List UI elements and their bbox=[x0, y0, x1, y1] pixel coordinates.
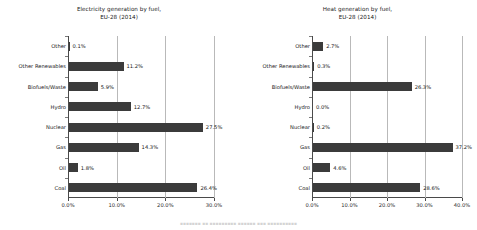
y-tick-mark-electricity bbox=[65, 36, 68, 37]
bar bbox=[69, 123, 203, 132]
chart-title-heat: Heat generation by fuel, EU-28 (2014) bbox=[238, 5, 477, 22]
figure-footer-caption: ▪▪▪▪▪▪▪ ▪▪ ▪▪▪▪▪▪▪▪▪ ▪▪▪▪▪▪ ▪▪▪ ▪▪▪▪▪▪▪▪… bbox=[0, 221, 477, 227]
gridline-heat bbox=[462, 36, 463, 198]
x-tick-label: 0.0% bbox=[305, 202, 318, 208]
y-tick-mark-electricity bbox=[65, 178, 68, 179]
x-tick-label: 0.0% bbox=[61, 202, 74, 208]
y-tick-mark-electricity bbox=[65, 97, 68, 98]
x-tick-mark-heat bbox=[350, 198, 351, 201]
y-tick-mark-heat bbox=[309, 158, 312, 159]
gridline-electricity bbox=[165, 36, 166, 198]
bar-value-label: 37.2% bbox=[456, 144, 472, 150]
bar bbox=[313, 82, 412, 91]
y-tick-mark-electricity bbox=[65, 117, 68, 118]
electricity-generation-chart: Electricity generation by fuel, EU-28 (2… bbox=[0, 0, 238, 230]
y-tick-mark-electricity bbox=[65, 137, 68, 138]
x-tick-mark-heat bbox=[312, 198, 313, 201]
x-axis-tick-labels-electricity: 0.0%10.0%20.0%30.0% bbox=[68, 202, 214, 212]
x-axis-line-electricity bbox=[68, 197, 214, 198]
x-tick-mark-heat bbox=[462, 198, 463, 201]
category-label: Other Renewables bbox=[246, 63, 310, 69]
gridline-heat bbox=[387, 36, 388, 198]
bar-value-label: 0.0% bbox=[316, 104, 329, 110]
x-tick-label: 20.0% bbox=[379, 202, 395, 208]
bar-value-label: 28.6% bbox=[423, 185, 439, 191]
x-tick-mark-electricity bbox=[165, 198, 166, 201]
x-axis-tick-labels-heat: 0.0%10.0%20.0%30.0%40.0% bbox=[312, 202, 462, 212]
x-tick-mark-electricity bbox=[68, 198, 69, 201]
bar bbox=[69, 143, 139, 152]
x-tick-mark-electricity bbox=[117, 198, 118, 201]
x-tick-label: 30.0% bbox=[206, 202, 222, 208]
bar-value-label: 26.3% bbox=[415, 84, 431, 90]
bar bbox=[313, 123, 314, 132]
bar bbox=[313, 62, 314, 71]
x-tick-label: 10.0% bbox=[108, 202, 124, 208]
bar-value-label: 0.1% bbox=[72, 43, 85, 49]
y-tick-mark-heat bbox=[309, 117, 312, 118]
figure-root: Electricity generation by fuel, EU-28 (2… bbox=[0, 0, 477, 230]
bar-value-label: 0.3% bbox=[317, 63, 330, 69]
y-tick-mark-electricity bbox=[65, 158, 68, 159]
bar bbox=[69, 62, 124, 71]
x-tick-mark-heat bbox=[425, 198, 426, 201]
y-tick-mark-heat bbox=[309, 77, 312, 78]
category-label: Oil bbox=[0, 165, 66, 171]
category-label: Coal bbox=[0, 185, 66, 191]
bar-value-label: 1.8% bbox=[81, 165, 94, 171]
category-label: Other bbox=[0, 43, 66, 49]
bar bbox=[69, 163, 78, 172]
gridline-heat bbox=[350, 36, 351, 198]
y-axis-line-electricity bbox=[68, 36, 69, 198]
x-tick-label: 10.0% bbox=[341, 202, 357, 208]
category-label: Nuclear bbox=[0, 124, 66, 130]
bar-value-label: 11.2% bbox=[127, 63, 143, 69]
bar bbox=[69, 82, 98, 91]
bar bbox=[313, 163, 330, 172]
bar bbox=[313, 183, 420, 192]
bar-value-label: 2.7% bbox=[326, 43, 339, 49]
y-tick-mark-heat bbox=[309, 56, 312, 57]
gridline-electricity bbox=[117, 36, 118, 198]
bar bbox=[69, 183, 197, 192]
bar-value-label: 26.4% bbox=[200, 185, 216, 191]
category-label: Other Renewables bbox=[0, 63, 66, 69]
bar bbox=[69, 102, 131, 111]
category-label: Gas bbox=[0, 144, 66, 150]
category-label: Biofuels/Waste bbox=[0, 84, 66, 90]
x-tick-label: 20.0% bbox=[157, 202, 173, 208]
bar bbox=[313, 143, 453, 152]
bar-value-label: 27.5% bbox=[206, 124, 222, 130]
x-tick-mark-electricity bbox=[214, 198, 215, 201]
category-label: Other bbox=[246, 43, 310, 49]
y-tick-mark-heat bbox=[309, 137, 312, 138]
chart-title-electricity: Electricity generation by fuel, EU-28 (2… bbox=[0, 5, 238, 22]
plot-area-heat: 2.7%0.3%26.3%0.0%0.2%37.2%4.6%28.6% bbox=[312, 36, 462, 198]
bar-value-label: 4.6% bbox=[333, 165, 346, 171]
y-tick-mark-electricity bbox=[65, 77, 68, 78]
x-tick-mark-heat bbox=[387, 198, 388, 201]
gridline-heat bbox=[425, 36, 426, 198]
y-axis-line-heat bbox=[312, 36, 313, 198]
x-tick-label: 30.0% bbox=[416, 202, 432, 208]
category-label: Coal bbox=[246, 185, 310, 191]
bar-value-label: 12.7% bbox=[134, 104, 150, 110]
category-label: Gas bbox=[246, 144, 310, 150]
y-tick-mark-electricity bbox=[65, 56, 68, 57]
y-tick-mark-heat bbox=[309, 178, 312, 179]
gridline-electricity bbox=[214, 36, 215, 198]
y-axis-category-labels-heat: OtherOther RenewablesBiofuels/WasteHydro… bbox=[246, 36, 310, 198]
bar-value-label: 14.3% bbox=[142, 144, 158, 150]
x-tick-label: 40.0% bbox=[454, 202, 470, 208]
plot-area-electricity: 0.1%11.2%5.9%12.7%27.5%14.3%1.8%26.4% bbox=[68, 36, 214, 198]
category-label: Hydro bbox=[246, 104, 310, 110]
y-axis-category-labels-electricity: OtherOther RenewablesBiofuels/WasteHydro… bbox=[0, 36, 66, 198]
category-label: Oil bbox=[246, 165, 310, 171]
bar bbox=[313, 42, 323, 51]
y-tick-mark-heat bbox=[309, 97, 312, 98]
category-label: Hydro bbox=[0, 104, 66, 110]
bar-value-label: 5.9% bbox=[101, 84, 114, 90]
category-label: Nuclear bbox=[246, 124, 310, 130]
y-tick-mark-heat bbox=[309, 36, 312, 37]
category-label: Biofuels/Waste bbox=[246, 84, 310, 90]
